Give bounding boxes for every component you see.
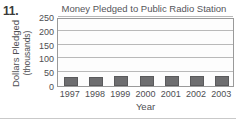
- y-tick-label: 250: [28, 13, 54, 23]
- y-tick-label: 100: [28, 54, 54, 64]
- bar-1997: [64, 77, 78, 86]
- gridline: [58, 16, 233, 17]
- y-tick-label: 150: [28, 41, 54, 51]
- x-axis-tick-labels: 1997199819992000200120022003: [0, 89, 236, 101]
- x-tick-label: 2003: [206, 89, 236, 99]
- plot-area: [57, 18, 234, 87]
- x-axis-label: Year: [57, 101, 234, 112]
- y-tick-label: 50: [28, 68, 54, 78]
- bar-1998: [89, 77, 103, 86]
- bar-2003: [215, 76, 229, 86]
- y-tick-label: 200: [28, 27, 54, 37]
- bar-2002: [190, 76, 204, 86]
- figure-frame: 11. Money Pledged to Public Radio Statio…: [0, 0, 236, 119]
- bar-2000: [140, 76, 154, 86]
- bar-1999: [114, 76, 128, 86]
- bar-series: [58, 19, 233, 86]
- bar-2001: [165, 76, 179, 86]
